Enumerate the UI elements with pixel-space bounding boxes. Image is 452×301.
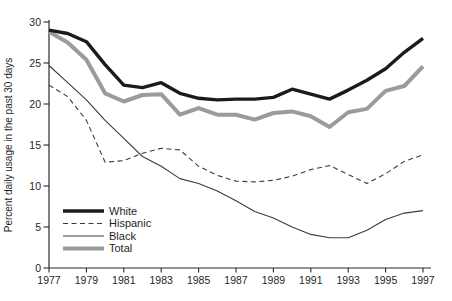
legend-label-hispanic: Hispanic bbox=[109, 217, 152, 229]
y-tick-label: 0 bbox=[35, 262, 41, 274]
y-tick-label: 15 bbox=[29, 139, 41, 151]
x-tick-label: 1979 bbox=[75, 274, 99, 286]
x-tick-label: 1983 bbox=[150, 274, 174, 286]
x-tick-label: 1987 bbox=[224, 274, 248, 286]
y-tick-label: 20 bbox=[29, 98, 41, 110]
x-tick-label: 1997 bbox=[411, 274, 435, 286]
legend-label-total: Total bbox=[109, 242, 132, 254]
y-tick-label: 30 bbox=[29, 16, 41, 28]
y-tick-label: 10 bbox=[29, 180, 41, 192]
legend-label-black: Black bbox=[109, 230, 136, 242]
x-tick-label: 1991 bbox=[299, 274, 323, 286]
smoking-trend-figure: 0510152025301977197919811983198519871989… bbox=[0, 0, 452, 301]
x-tick-label: 1977 bbox=[37, 274, 61, 286]
line-chart: 0510152025301977197919811983198519871989… bbox=[0, 0, 452, 301]
y-tick-label: 25 bbox=[29, 57, 41, 69]
x-tick-label: 1993 bbox=[337, 274, 361, 286]
legend: WhiteHispanicBlackTotal bbox=[63, 205, 152, 255]
axes: 0510152025301977197919811983198519871989… bbox=[29, 16, 435, 286]
data-series bbox=[49, 30, 423, 238]
y-tick-label: 5 bbox=[35, 221, 41, 233]
x-tick-label: 1985 bbox=[187, 274, 211, 286]
y-axis-title: Percent daily usage in the past 30 days bbox=[3, 58, 14, 233]
x-tick-label: 1981 bbox=[112, 274, 136, 286]
x-tick-label: 1995 bbox=[374, 274, 398, 286]
legend-label-white: White bbox=[109, 205, 137, 217]
x-tick-label: 1989 bbox=[262, 274, 286, 286]
